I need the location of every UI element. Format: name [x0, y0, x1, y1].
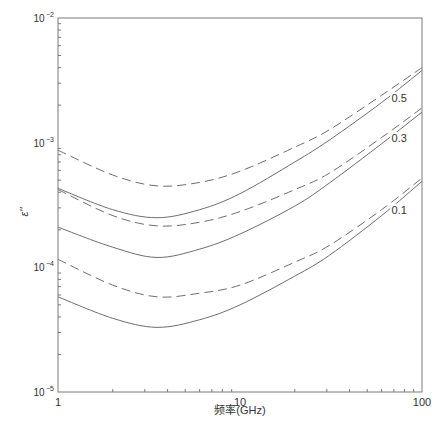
y-tick-label: 10 −3 [33, 136, 54, 149]
x-tick-label: 1 [55, 396, 61, 408]
curve-labels: 0.50.30.1 [390, 92, 408, 216]
y-tick-labels: 10 −210 −310 −410 −5 [33, 11, 54, 398]
log-log-plot: 0.50.30.1 10 −210 −310 −410 −5 110100 频率… [0, 0, 446, 434]
y-tick-label: 10 −5 [33, 385, 54, 398]
curve-0-3-dashed [58, 108, 422, 226]
curve-0-5-solid [58, 70, 422, 217]
y-tick-label: 10 −2 [33, 11, 54, 24]
curve-0-3-solid [58, 112, 422, 257]
curve-0-1-dashed [58, 178, 422, 297]
x-tick-label: 100 [413, 396, 431, 408]
curve-0-5-dashed [58, 68, 422, 187]
plot-frame [58, 18, 422, 392]
y-axis-label: ε'' [18, 207, 30, 217]
curve-0-1-solid [58, 181, 422, 327]
curve-label: 0.3 [392, 132, 407, 144]
curve-label: 0.1 [392, 204, 407, 216]
chart: 0.50.30.1 10 −210 −310 −410 −5 110100 频率… [0, 0, 446, 434]
data-curves [58, 68, 422, 328]
x-axis-label: 频率(GHz) [214, 403, 265, 416]
axis-ticks [58, 24, 414, 392]
y-tick-label: 10 −4 [33, 260, 54, 273]
curve-label: 0.5 [392, 92, 407, 104]
